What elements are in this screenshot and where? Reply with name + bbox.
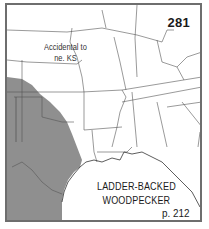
map-number: 281 (167, 15, 190, 30)
range-shading (7, 77, 82, 222)
range-map-frame: 281 Accidental to ne. KS LADDER-BACKED W… (5, 3, 202, 222)
page-reference: p. 212 (162, 207, 190, 219)
note-line-2: ne. KS (44, 53, 87, 64)
species-name: LADDER-BACKED WOODPECKER (97, 179, 176, 207)
accidental-note: Accidental to ne. KS (44, 42, 87, 64)
species-line-2: WOODPECKER (97, 193, 176, 207)
note-line-1: Accidental to (44, 42, 87, 53)
species-line-1: LADDER-BACKED (97, 179, 176, 193)
